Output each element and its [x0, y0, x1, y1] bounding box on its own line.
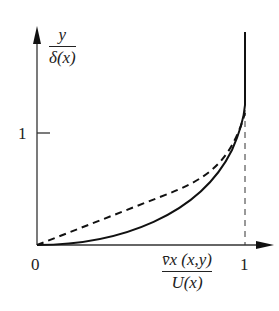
- y-axis-arrow-icon: [33, 26, 41, 44]
- x-label-numerator: v̄x (x,y): [162, 251, 212, 269]
- y-tick-label-1: 1: [18, 125, 27, 142]
- x-label-fraction-bar: [162, 271, 212, 272]
- y-label-numerator: y: [59, 26, 67, 44]
- velocity-profile-diagram: y δ(x) 1 0 1 v̄x (x,y) U(x): [0, 0, 279, 311]
- y-axis-label: y δ(x): [49, 26, 76, 67]
- x-tick-label-1: 1: [240, 256, 249, 273]
- y-label-denominator: δ(x): [49, 49, 76, 67]
- y-label-fraction-bar: [49, 46, 76, 47]
- origin-label: 0: [31, 256, 40, 273]
- x-axis-label: v̄x (x,y) U(x): [162, 251, 212, 292]
- plot-area: [0, 0, 279, 311]
- x-label-denominator: U(x): [171, 274, 202, 292]
- x-axis-arrow-icon: [256, 241, 274, 249]
